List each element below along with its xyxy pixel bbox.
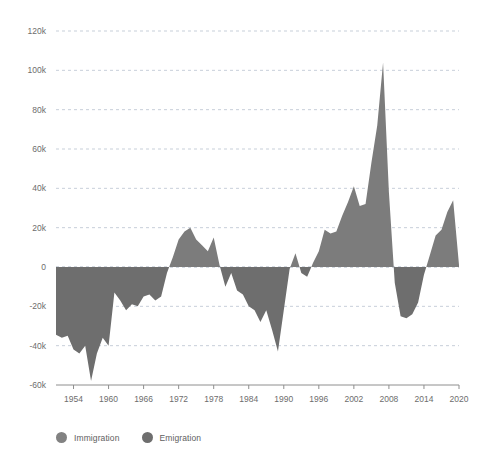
legend-item-immigration[interactable]: Immigration bbox=[56, 432, 120, 443]
emigration-area bbox=[56, 267, 426, 381]
legend-item-emigration[interactable]: Emigration bbox=[142, 432, 202, 443]
legend-label-emigration: Emigration bbox=[160, 433, 202, 443]
legend-label-immigration: Immigration bbox=[74, 433, 120, 443]
legend-dot-emigration bbox=[142, 432, 153, 443]
y-axis-tick-label: 100k bbox=[28, 65, 47, 75]
x-axis-labels-group: 1954196019661972197819841990199620022008… bbox=[64, 394, 469, 404]
y-axis-labels-group: 120k100k80k60k40k20k0-20k-40k-60k bbox=[28, 26, 47, 390]
x-axis-tick-label: 1996 bbox=[309, 394, 328, 404]
legend-dot-immigration bbox=[56, 432, 67, 443]
y-axis-tick-label: -20k bbox=[29, 301, 46, 311]
x-axis-tick-label: 1990 bbox=[274, 394, 293, 404]
chart-legend: Immigration Emigration bbox=[56, 432, 201, 443]
x-axis-tick-label: 1972 bbox=[169, 394, 188, 404]
y-axis-tick-label: 60k bbox=[32, 144, 46, 154]
y-axis-tick-label: 120k bbox=[28, 26, 47, 36]
x-axis-tick-label: 2008 bbox=[379, 394, 398, 404]
x-axis-tick-label: 1954 bbox=[64, 394, 83, 404]
y-axis-tick-label: -40k bbox=[29, 341, 46, 351]
data-area-group bbox=[56, 62, 459, 381]
y-axis-tick-label: 20k bbox=[32, 223, 46, 233]
x-axis-tick-label: 1978 bbox=[204, 394, 223, 404]
x-axis-tick-label: 2002 bbox=[344, 394, 363, 404]
y-axis-tick-label: 40k bbox=[32, 183, 46, 193]
y-axis-tick-label: 80k bbox=[32, 105, 46, 115]
x-axis-tick-label: 1960 bbox=[99, 394, 118, 404]
y-axis-tick-label: -60k bbox=[29, 380, 46, 390]
chart-canvas: 120k100k80k60k40k20k0-20k-40k-60k 195419… bbox=[0, 0, 489, 420]
x-axis-group bbox=[56, 385, 459, 389]
x-axis-tick-label: 1984 bbox=[239, 394, 258, 404]
immigration-area bbox=[169, 62, 459, 267]
migration-area-chart: 120k100k80k60k40k20k0-20k-40k-60k 195419… bbox=[0, 0, 489, 476]
y-axis-tick-label: 0 bbox=[41, 262, 46, 272]
x-axis-tick-label: 2014 bbox=[414, 394, 433, 404]
x-axis-tick-label: 1966 bbox=[134, 394, 153, 404]
x-axis-tick-label: 2020 bbox=[450, 394, 469, 404]
plot-area: 120k100k80k60k40k20k0-20k-40k-60k 195419… bbox=[0, 0, 489, 420]
